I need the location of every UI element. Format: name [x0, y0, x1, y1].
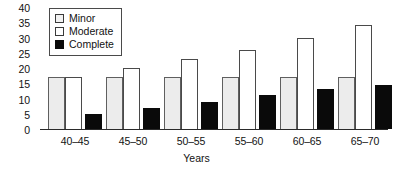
legend-label: Moderate: [69, 26, 113, 37]
x-tick-label: 65–70: [351, 136, 380, 147]
bar-moderate: [181, 59, 198, 129]
bar-group: [164, 8, 218, 129]
x-tick-label: 55–60: [235, 136, 264, 147]
bar-complete: [201, 102, 218, 129]
bar-minor: [164, 77, 181, 129]
bar-minor: [222, 77, 239, 129]
bar-moderate: [123, 68, 140, 129]
bar-complete: [375, 85, 392, 129]
bar-complete: [143, 108, 160, 129]
bar-minor: [280, 77, 297, 129]
bar-group: [280, 8, 334, 129]
legend-swatch-minor: [55, 14, 64, 23]
bar-moderate: [239, 50, 256, 129]
legend: MinorModerateComplete: [49, 8, 122, 56]
y-tick-label: 20: [19, 64, 30, 75]
bar-minor: [48, 77, 65, 129]
y-tick-label: 25: [19, 49, 30, 60]
legend-item: Moderate: [55, 25, 114, 38]
y-axis: 0510152025303540: [0, 0, 40, 172]
y-tick-label: 30: [19, 33, 30, 44]
y-tick-label: 10: [19, 94, 30, 105]
legend-label: Minor: [69, 13, 95, 24]
x-tick-label: 40–45: [61, 136, 90, 147]
y-tick-label: 0: [24, 125, 30, 136]
x-tick-label: 50–55: [177, 136, 206, 147]
bar-complete: [85, 114, 102, 129]
bar-minor: [106, 77, 123, 129]
bar-moderate: [355, 25, 372, 129]
y-tick-label: 5: [24, 110, 30, 121]
bar-moderate: [297, 38, 314, 130]
bar-complete: [259, 95, 276, 129]
legend-item: Minor: [55, 12, 114, 25]
bar-group: [222, 8, 276, 129]
bar-minor: [338, 77, 355, 129]
bar-chart: 0510152025303540 MinorModerateComplete Y…: [0, 0, 393, 172]
x-tick-label: 60–65: [293, 136, 322, 147]
y-tick-label: 35: [19, 18, 30, 29]
legend-label: Complete: [69, 39, 114, 50]
y-tick-label: 40: [19, 3, 30, 14]
legend-swatch-complete: [55, 40, 64, 49]
bar-group: [338, 8, 392, 129]
x-axis-title: Years: [0, 153, 393, 164]
x-tick-label: 45–50: [119, 136, 148, 147]
bar-complete: [317, 89, 334, 129]
bar-moderate: [65, 77, 82, 129]
x-axis-baseline: [40, 129, 388, 130]
legend-item: Complete: [55, 38, 114, 51]
y-tick-label: 15: [19, 79, 30, 90]
legend-swatch-moderate: [55, 27, 64, 36]
